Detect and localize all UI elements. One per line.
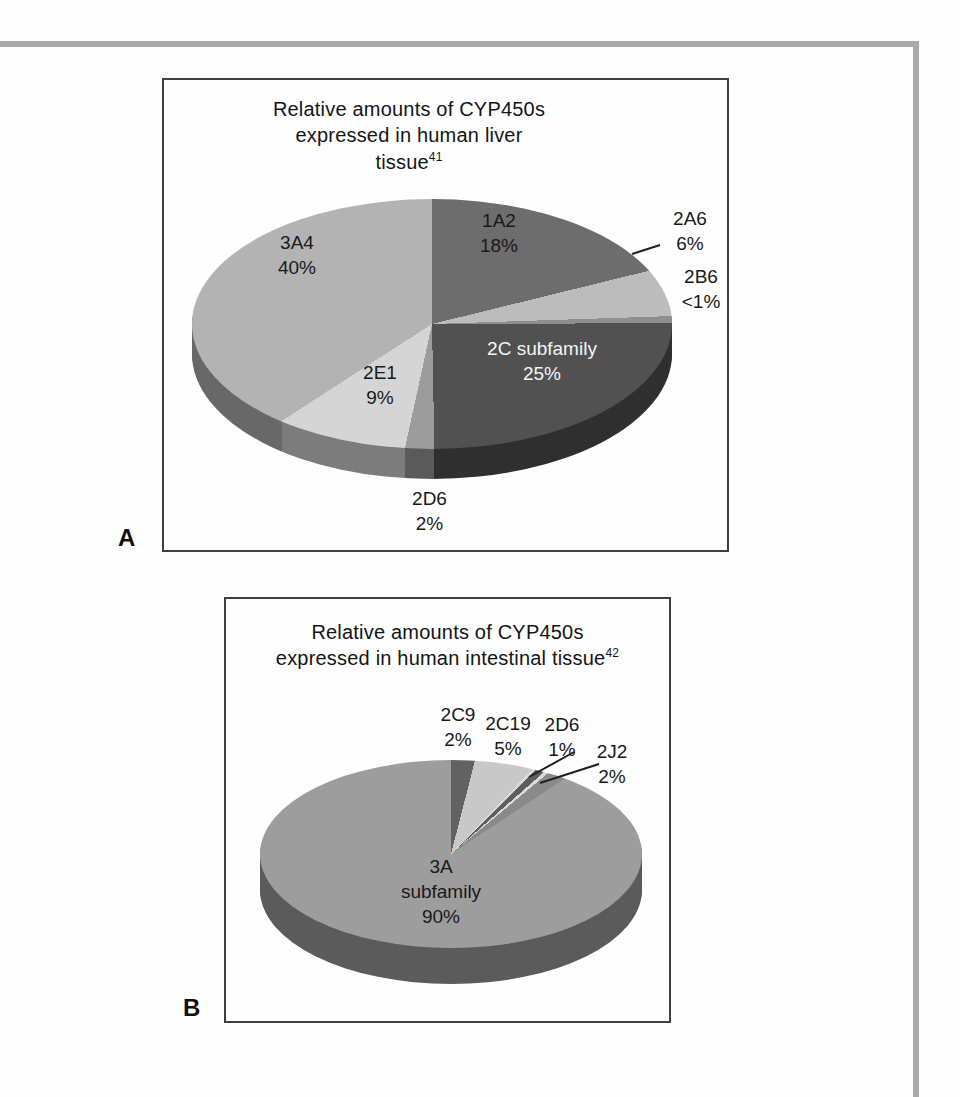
chart-a-title-line1: Relative amounts of CYP450s [204,96,614,122]
chart-a-title-line2: expressed in human liver [204,122,614,148]
slice-label-2j2: 2J22% [587,739,637,789]
panel-b-box: Relative amounts of CYP450s expressed in… [224,597,671,1023]
figure-label-b: B [183,994,200,1022]
slice-label-2e1: 2E19% [346,360,414,410]
slice-label-2c9: 2C92% [433,702,483,752]
chart-b-title-line1: Relative amounts of CYP450s [226,619,669,645]
slice-label-2c-subfamily: 2C subfamily25% [452,336,632,386]
chart-a-reference-superscript: 41 [429,150,443,164]
slice-label-3a4: 3A440% [259,230,335,280]
slice-label-3a-subfamily: 3A subfamily90% [366,854,516,929]
chart-a-title: Relative amounts of CYP450s expressed in… [204,96,614,175]
chart-b-title-line2: expressed in human intestinal tissue42 [226,645,669,671]
page-border-right [913,41,919,1097]
chart-a-title-line3: tissue41 [204,149,614,175]
slice-label-2d6-intestinal: 2D61% [537,712,587,762]
figure-label-a: A [118,524,135,552]
slice-label-2a6: 2A66% [654,206,726,256]
slice-label-2d6-liver: 2D62% [392,486,467,536]
chart-b-title: Relative amounts of CYP450s expressed in… [226,619,669,672]
slice-label-1a2: 1A218% [461,208,537,258]
slice-label-2c19: 2C195% [481,711,535,761]
page-border-top [0,41,919,47]
panel-a-box: Relative amounts of CYP450s expressed in… [162,78,729,552]
chart-b-reference-superscript: 42 [605,647,619,661]
slice-label-2b6: 2B6<1% [662,264,740,314]
